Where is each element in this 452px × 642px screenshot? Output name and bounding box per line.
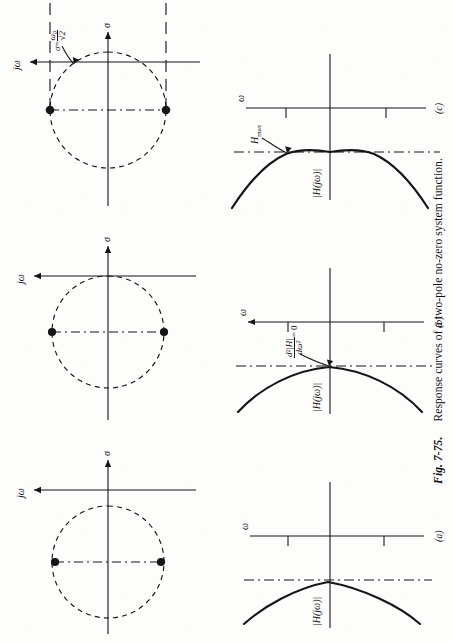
response-plot-a xyxy=(244,482,432,628)
jomega-axis-label-a: jω xyxy=(16,488,26,498)
second-derivative-equals: = 0 xyxy=(289,326,299,338)
panel-b-graphics xyxy=(0,214,452,428)
second-derivative-annotation: d²|H| dω² = 0 xyxy=(285,326,304,358)
panel-b: σ jω |H(jω)| ω d²|H| dω² = 0 (b) xyxy=(0,214,452,428)
magnitude-axis-label-c: |H(jω)| xyxy=(312,169,322,198)
second-derivative-denominator: dω² xyxy=(295,337,304,358)
figure-caption: Fig. 7-75. Response curves of a two-pole… xyxy=(432,0,444,642)
response-plot-c xyxy=(232,54,440,208)
peak-magnitude-subscript: max xyxy=(255,125,263,137)
magnitude-axis-label-a: |H(jω)| xyxy=(312,597,322,626)
sigma-axis-label-c: σ xyxy=(102,23,112,28)
sigma-axis-label-a: σ xyxy=(102,451,112,456)
figure-caption-text: Response curves of a two-pole no-zero sy… xyxy=(432,158,444,421)
figure-number: Fig. 7-75. xyxy=(432,437,444,484)
omega-axis-label-b: ω xyxy=(238,309,248,316)
sigma-value-annotation: σ= ω₀ √2 xyxy=(48,30,67,51)
sigma-annotation-symbol: σ xyxy=(52,47,62,51)
jomega-axis-label-b: jω xyxy=(16,274,26,284)
panel-c: σ jω σ= ω₀ √2 |H(jω)| ω Hmax (c) xyxy=(0,0,452,214)
magnitude-axis-label-b: |H(jω)| xyxy=(312,383,322,412)
sigma-annotation-denominator: √2 xyxy=(58,30,67,41)
pole-zero-plot-b xyxy=(34,246,196,420)
peak-magnitude-annotation: Hmax xyxy=(250,125,263,144)
panel-a: σ jω |H(jω)| ω (a) xyxy=(0,428,452,642)
omega-axis-label-a: ω xyxy=(240,523,250,530)
sigma-axis-label-b: σ xyxy=(102,237,112,242)
peak-magnitude-symbol: H xyxy=(249,137,260,144)
sigma-annotation-equals: = xyxy=(52,41,62,46)
panel-c-graphics xyxy=(0,0,452,214)
panel-a-graphics xyxy=(0,428,452,642)
omega-axis-label-c: ω xyxy=(236,95,246,102)
response-plot-b xyxy=(236,268,436,414)
figure-stage: σ jω |H(jω)| ω (a) xyxy=(0,0,452,642)
pole-zero-plot-c xyxy=(30,32,200,206)
pole-zero-plot-a xyxy=(34,460,196,634)
jomega-axis-label-c: jω xyxy=(12,60,22,70)
